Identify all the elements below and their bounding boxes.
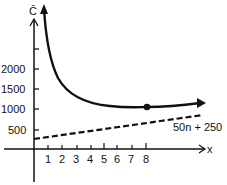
x-tick-6: 6 — [114, 153, 120, 165]
average-cost-chart: C̄ 2000 1500 1000 500 x 1 2 3 4 5 6 — [0, 0, 227, 185]
minimum-point-marker — [144, 104, 151, 111]
y-axis: C̄ 2000 1500 1000 500 — [1, 5, 39, 182]
curve-start-arrow-icon — [40, 4, 48, 14]
y-axis-title: C̄ — [29, 5, 37, 17]
curve-end-arrow-icon — [197, 98, 206, 108]
y-tick-500: 500 — [8, 124, 26, 136]
x-tick-5: 5 — [101, 153, 107, 165]
x-tick-1: 1 — [45, 153, 51, 165]
x-tick-3: 3 — [73, 153, 79, 165]
y-tick-1500: 1500 — [1, 83, 25, 95]
x-axis: x 1 2 3 4 5 6 7 8 — [4, 143, 213, 165]
x-axis-title: x — [207, 143, 213, 155]
x-tick-2: 2 — [59, 153, 65, 165]
x-tick-8: 8 — [143, 153, 149, 165]
y-tick-1000: 1000 — [1, 103, 25, 115]
line-label: 50n + 250 — [173, 121, 222, 133]
x-tick-7: 7 — [128, 153, 134, 165]
y-tick-2000: 2000 — [1, 63, 25, 75]
average-cost-series — [40, 4, 206, 110]
x-tick-4: 4 — [87, 153, 93, 165]
linear-cost-series: 50n + 250 — [34, 115, 222, 139]
